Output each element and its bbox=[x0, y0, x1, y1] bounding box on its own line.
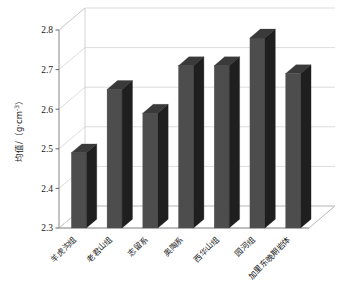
chart-figure: 2.32.42.52.62.72.8 羊虎沟组老君山组志留系奥陶系西华山组园河组… bbox=[0, 0, 346, 305]
bar-side-face bbox=[265, 29, 275, 228]
y-tick-label: 2.4 bbox=[41, 184, 53, 194]
chart-y-axis-label: 均值/（g·cm-3） bbox=[13, 96, 24, 162]
chart-category-labels: 羊虎沟组老君山组志留系奥陶系西华山组园河组加里东晚期岩体 bbox=[49, 234, 293, 281]
bar-front-face bbox=[107, 89, 122, 228]
bar bbox=[214, 57, 239, 228]
bar-side-face bbox=[229, 57, 239, 228]
bar bbox=[179, 57, 204, 228]
y-tick-label: 2.6 bbox=[41, 105, 53, 115]
y-tick-label: 2.5 bbox=[41, 144, 53, 154]
bar-front-face bbox=[179, 66, 194, 228]
category-label: 志留系 bbox=[126, 234, 150, 258]
bar-chart-3d: 2.32.42.52.62.72.8 羊虎沟组老君山组志留系奥陶系西华山组园河组… bbox=[0, 0, 346, 305]
category-label: 老君山组 bbox=[84, 234, 114, 264]
bar bbox=[286, 65, 311, 228]
bar-side-face bbox=[158, 104, 168, 228]
chart-y-ticks bbox=[56, 30, 60, 228]
chart-y-tick-labels: 2.32.42.52.62.72.8 bbox=[41, 25, 53, 233]
y-tick-label: 2.7 bbox=[41, 65, 53, 75]
bar-front-face bbox=[214, 66, 229, 228]
category-label: 西华山组 bbox=[191, 234, 221, 264]
bar bbox=[71, 144, 96, 228]
bar-front-face bbox=[71, 153, 86, 228]
y-axis-title: 均值/（g·cm-3） bbox=[13, 96, 24, 162]
bar-side-face bbox=[122, 81, 132, 228]
bar-side-face bbox=[86, 144, 96, 228]
bar bbox=[143, 104, 168, 228]
bar-front-face bbox=[286, 74, 301, 228]
bar-front-face bbox=[250, 38, 265, 228]
category-label: 羊虎沟组 bbox=[49, 234, 79, 264]
bar-front-face bbox=[143, 113, 158, 228]
bar bbox=[107, 81, 132, 228]
y-tick-label: 2.8 bbox=[41, 25, 53, 35]
category-label: 奥陶系 bbox=[161, 234, 185, 258]
bar bbox=[250, 29, 275, 228]
bar-side-face bbox=[194, 57, 204, 228]
bar-side-face bbox=[301, 65, 311, 228]
category-label: 园河组 bbox=[233, 234, 257, 258]
y-tick-label: 2.3 bbox=[41, 223, 53, 233]
